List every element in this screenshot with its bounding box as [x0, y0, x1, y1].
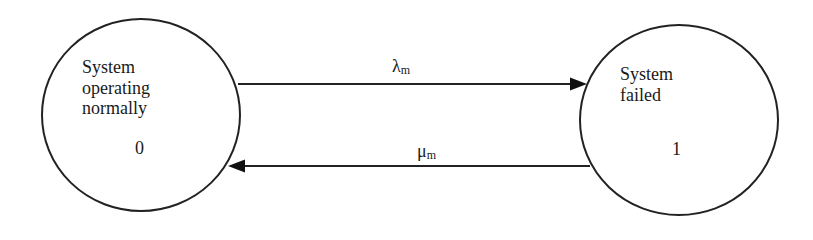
state-1-number: 1 [672, 139, 681, 159]
repair-rate-subscript: m [427, 148, 436, 162]
state-1-label-line-1: System [620, 64, 673, 85]
repair-rate-symbol: μ [417, 141, 427, 161]
state-0-label-line-2: operating [82, 78, 150, 99]
failure-rate-label: λm [392, 56, 410, 76]
state-0-label-line-3: normally [82, 98, 150, 119]
state-0-number: 0 [135, 138, 144, 158]
state-1-label-line-2: failed [620, 85, 673, 106]
state-1-label: System failed [620, 64, 673, 105]
arrow-head-right-icon [570, 78, 587, 91]
state-1-circle [580, 25, 778, 215]
state-0-label: System operating normally [82, 57, 150, 119]
arrow-head-left-icon [228, 160, 245, 173]
failure-rate-subscript: m [401, 63, 410, 77]
failure-rate-symbol: λ [392, 56, 401, 76]
state-0-label-line-1: System [82, 57, 150, 78]
repair-rate-label: μm [417, 141, 436, 161]
